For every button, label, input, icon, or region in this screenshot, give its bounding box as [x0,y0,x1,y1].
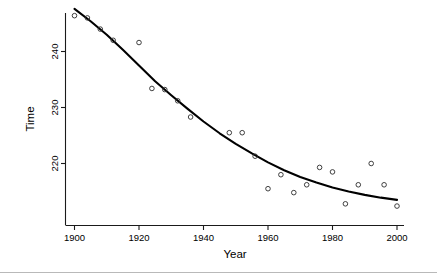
scatter-plot: 240 230 220 1900 1920 1940 1960 1980 200… [0,0,437,276]
data-point [266,186,271,191]
y-tick-label-220: 220 [49,156,60,172]
data-point [188,115,193,120]
data-point [330,170,335,175]
x-tick-label-1940: 1940 [193,232,214,243]
data-point [72,13,77,18]
y-tick-label-240: 240 [49,44,60,60]
data-point [382,182,387,187]
data-point [279,172,284,177]
data-point [343,202,348,207]
chart-container: 240 230 220 1900 1920 1940 1960 1980 200… [0,0,437,276]
x-tick-label-1900: 1900 [64,232,85,243]
data-point [240,130,245,135]
y-tick-label-230: 230 [49,100,60,116]
x-tick-label-1960: 1960 [257,232,278,243]
x-tick-label-2000: 2000 [386,232,407,243]
footer-divider [0,272,437,273]
x-tick-label-1920: 1920 [128,232,149,243]
y-axis-tick-labels: 240 230 220 [49,44,60,172]
data-point [304,182,309,187]
data-point [317,165,322,170]
x-tick-label-1980: 1980 [322,232,343,243]
x-axis-tick-labels: 1900 1920 1940 1960 1980 2000 [64,232,408,243]
data-point [150,86,155,91]
x-axis-ticks [75,226,398,231]
data-point [356,182,361,187]
y-axis-title: Time [24,106,36,131]
data-point [395,204,400,209]
data-point [292,190,297,195]
data-point [227,130,232,135]
data-point [137,40,142,45]
data-point [369,161,374,166]
data-point-group [72,13,399,208]
y-axis-ticks [61,52,66,164]
fitted-curve [75,9,398,200]
x-axis-title: Year [223,248,246,260]
